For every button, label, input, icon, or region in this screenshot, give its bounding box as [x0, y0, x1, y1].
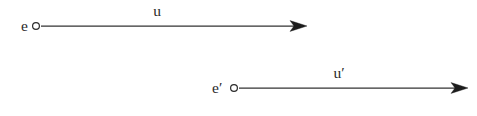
vector-label-u-prime: u′ [333, 64, 344, 81]
origin-label-e: e [21, 17, 28, 34]
vector-group-u: e u [21, 2, 307, 34]
diagram-canvas: e u e′ u′ [0, 0, 477, 116]
vector-diagram-figure: e u e′ u′ [0, 0, 477, 116]
origin-label-e-prime: e′ [212, 79, 222, 96]
vector-group-u-prime: e′ u′ [212, 64, 468, 96]
vector-label-u: u [153, 2, 161, 19]
origin-point-circle-e [33, 23, 40, 30]
origin-point-circle-e-prime [231, 85, 238, 92]
